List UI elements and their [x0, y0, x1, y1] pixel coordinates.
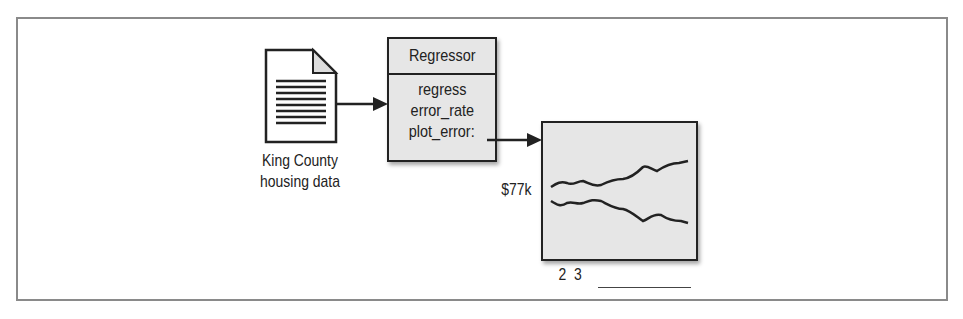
source-label-line1: King County: [255, 150, 345, 171]
error-plot-box: [541, 121, 698, 261]
regressor-methods: regress error_rate plot_error:: [389, 75, 495, 142]
arrow-plot-to-chart: [487, 132, 543, 148]
method-plot-error: plot_error:: [389, 121, 495, 142]
source-label: King County housing data: [255, 150, 345, 192]
document-icon: [263, 47, 339, 145]
source-label-line2: housing data: [255, 171, 345, 192]
regressor-box: Regressor regress error_rate plot_error:: [387, 37, 497, 162]
y-axis-label: $77k: [501, 180, 531, 200]
method-regress: regress: [389, 79, 495, 100]
regressor-title: Regressor: [389, 39, 495, 75]
x-axis-labels: 2 3: [559, 265, 582, 285]
error-curves: [543, 123, 696, 259]
x-axis-underline: [598, 287, 691, 288]
arrow-doc-to-regressor: [335, 96, 389, 112]
method-error-rate: error_rate: [389, 100, 495, 121]
